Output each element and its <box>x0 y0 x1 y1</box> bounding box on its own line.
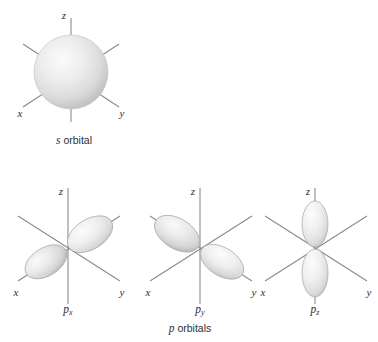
px-orbital-caption: px <box>16 303 120 317</box>
py-orbital-caption: py <box>148 303 252 317</box>
py-lobe-negative <box>148 208 206 260</box>
s-orbital-svg: z x y <box>0 0 160 132</box>
px-lobe-negative <box>19 238 73 286</box>
s-axis-label-x: x <box>17 107 23 119</box>
py-axis-label-x: x <box>145 286 151 298</box>
pz-axis-label-z: z <box>305 185 311 197</box>
s-axis-label-y: y <box>119 107 125 119</box>
pz-lobe-negative <box>302 249 328 297</box>
px-lobe-pair <box>18 208 119 286</box>
pz-orbital-caption: pz <box>263 303 367 317</box>
pz-lobe-pair <box>302 201 328 297</box>
s-axis-label-z: z <box>61 9 67 21</box>
s-caption-roman: orbital <box>60 134 92 146</box>
pz-axis-label-x: x <box>260 286 266 298</box>
px-axis-label-z: z <box>58 185 64 197</box>
pz-axis-label-y: y <box>366 286 372 298</box>
py-axis-label-z: z <box>190 185 196 197</box>
px-axis-label-x: x <box>13 286 19 298</box>
py-lobe-positive <box>194 237 250 286</box>
pz-caption-subscript: z <box>316 308 319 317</box>
s-orbital-sphere <box>34 35 108 109</box>
pz-orbital-diagram: z x y <box>251 186 378 306</box>
p-orbitals-group-caption: p orbitals <box>130 322 250 334</box>
px-lobe-positive <box>61 208 119 260</box>
px-orbital-svg: z x y <box>4 186 136 306</box>
s-orbital-diagram: z x y <box>0 0 160 132</box>
py-orbital-diagram: z x y <box>136 186 268 306</box>
orbital-figure: z x y s orbital <box>0 0 378 342</box>
px-orbital-diagram: z x y <box>4 186 136 306</box>
px-caption-subscript: x <box>69 308 73 317</box>
pz-lobe-positive <box>302 201 328 247</box>
p-group-caption-roman: orbitals <box>174 322 211 334</box>
py-orbital-svg: z x y <box>136 186 268 306</box>
px-axis-label-y: y <box>119 286 125 298</box>
py-caption-subscript: y <box>201 308 205 317</box>
s-orbital-caption: s orbital <box>0 134 148 146</box>
pz-orbital-svg: z x y <box>251 186 378 306</box>
